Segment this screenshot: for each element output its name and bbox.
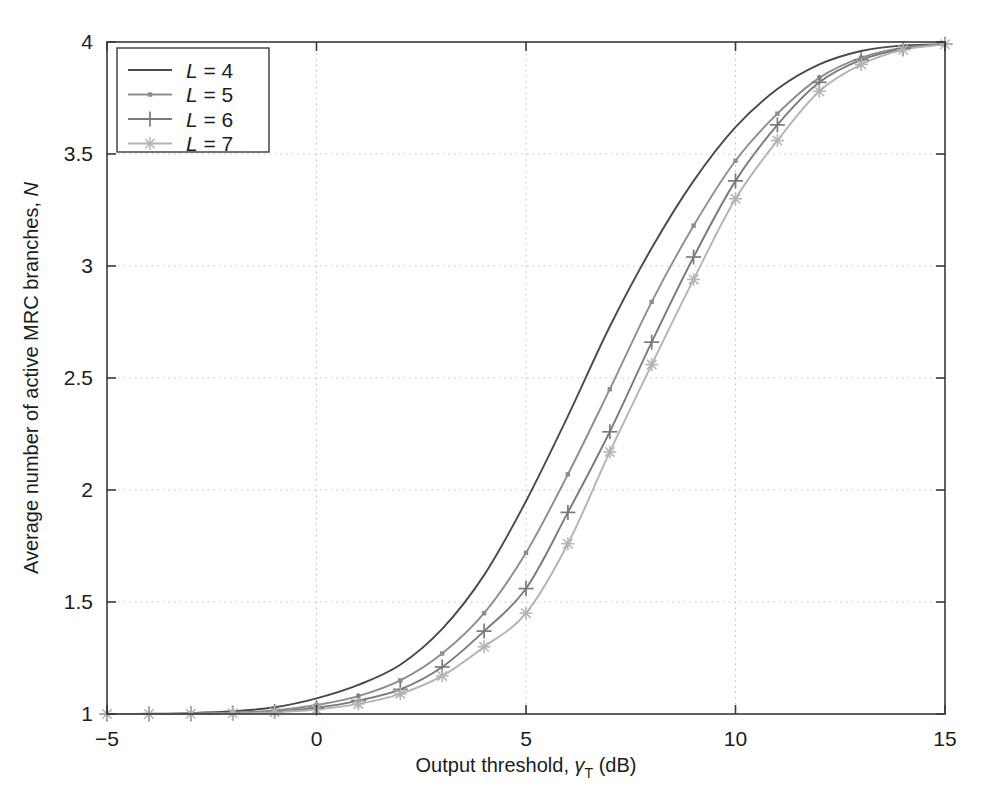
data-point-marker-star — [897, 43, 910, 56]
data-point-marker-star — [144, 137, 157, 150]
chart-figure: −505101511.522.533.54 Output threshold, … — [0, 0, 997, 800]
data-point-marker-star — [645, 358, 658, 371]
data-point-marker-star — [394, 687, 407, 700]
x-tick-label: 0 — [311, 727, 323, 750]
data-point-marker-plus — [560, 505, 575, 520]
data-point-marker-dot — [608, 387, 612, 391]
data-point-marker-dot — [524, 551, 528, 555]
data-point-marker-star — [436, 669, 449, 682]
data-point-marker-star — [813, 85, 826, 98]
data-point-marker-dot — [482, 611, 486, 615]
data-point-marker-star — [855, 58, 868, 71]
legend-label: L = 6 — [186, 108, 233, 131]
y-axis-title: Average number of active MRC branches, N — [20, 181, 42, 574]
data-point-marker-star — [268, 706, 281, 719]
data-point-marker-dot — [733, 159, 737, 163]
x-tick-label: 5 — [520, 727, 532, 750]
data-point-marker-star — [729, 192, 742, 205]
data-point-marker-star — [352, 697, 365, 710]
x-tick-label: 15 — [933, 727, 956, 750]
y-tick-label: 4 — [81, 30, 93, 53]
legend-label: L = 5 — [186, 83, 233, 106]
y-tick-label: 3.5 — [64, 142, 93, 165]
y-tick-label: 1 — [81, 702, 93, 725]
data-point-marker-dot — [566, 472, 570, 476]
y-tick-label: 2.5 — [64, 366, 93, 389]
data-point-marker-plus — [519, 581, 534, 596]
x-axis-title: Output threshold, γT (dB) — [416, 754, 637, 781]
y-tick-label: 1.5 — [64, 590, 93, 613]
data-point-marker-dot — [775, 111, 779, 115]
data-point-marker-dot — [148, 92, 152, 96]
data-point-marker-dot — [650, 300, 654, 304]
legend-label: L = 7 — [186, 132, 233, 155]
data-point-marker-plus — [644, 335, 659, 350]
legend-label: L = 4 — [186, 59, 234, 82]
data-point-marker-star — [520, 607, 533, 620]
data-point-marker-star — [561, 537, 574, 550]
x-tick-label: −5 — [95, 727, 119, 750]
data-point-marker-plus — [602, 424, 617, 439]
data-point-marker-plus — [686, 250, 701, 265]
y-tick-label: 3 — [81, 254, 93, 277]
y-tick-label: 2 — [81, 478, 93, 501]
legend: L = 4L = 5L = 6L = 7 — [117, 48, 269, 155]
chart-plot-area: −505101511.522.533.54 Output threshold, … — [0, 0, 997, 800]
data-point-marker-dot — [440, 651, 444, 655]
x-tick-label: 10 — [724, 727, 747, 750]
data-point-marker-star — [478, 640, 491, 653]
data-point-marker-star — [771, 134, 784, 147]
data-point-marker-star — [687, 273, 700, 286]
data-point-marker-star — [603, 445, 616, 458]
data-point-marker-plus — [728, 173, 743, 188]
data-point-marker-dot — [691, 223, 695, 227]
